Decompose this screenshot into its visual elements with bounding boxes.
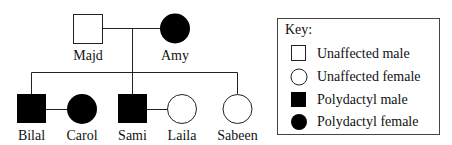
label-amy: Amy: [161, 48, 189, 63]
key-open-square-icon: [292, 46, 306, 61]
label-carol: Carol: [66, 128, 97, 143]
key-label-unaffected-male: Unaffected male: [317, 46, 410, 61]
sami-polydactyl-male-square: [118, 94, 147, 123]
key-open-circle-icon: [291, 69, 307, 85]
label-sabeen: Sabeen: [217, 128, 257, 143]
key-label-polydactyl-female: Polydactyl female: [317, 114, 418, 129]
label-bilal: Bilal: [18, 128, 45, 143]
sabeen-unaffected-female-circle: [223, 95, 252, 124]
key-label-unaffected-female: Unaffected female: [317, 69, 421, 84]
key-title: Key:: [285, 22, 312, 37]
carol-polydactyl-female-circle: [67, 94, 97, 124]
amy-polydactyl-female-circle: [160, 14, 190, 44]
label-majd: Majd: [73, 48, 103, 63]
key-filled-circle-icon: [291, 114, 307, 130]
label-laila: Laila: [168, 128, 198, 143]
laila-unaffected-female-circle: [168, 95, 197, 124]
pedigree-diagram: Majd Amy Bilal Carol Sami Laila Sabeen K…: [0, 0, 452, 145]
label-sami: Sami: [118, 128, 147, 143]
bilal-polydactyl-male-square: [17, 94, 46, 123]
key-legend: Key: Unaffected male Unaffected female P…: [278, 19, 440, 135]
key-filled-square-icon: [291, 92, 306, 107]
majd-unaffected-male-square: [74, 15, 103, 44]
key-label-polydactyl-male: Polydactyl male: [317, 92, 408, 107]
